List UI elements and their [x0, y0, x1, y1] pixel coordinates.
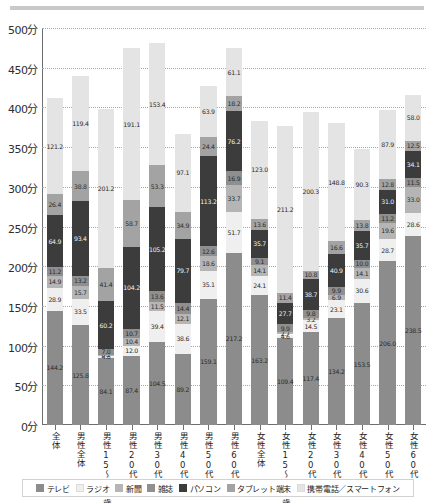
bar-value-label: 34.9 [170, 222, 197, 229]
bar-value-label: 10.7 [118, 330, 145, 337]
y-tick-label: 0分 [0, 418, 38, 434]
bar-stack[interactable]: 104.539.411.513.6105.253.3153.4 [149, 28, 166, 425]
bar-value-label: 35.1 [195, 281, 222, 288]
bar-stack[interactable]: 163.224.114.19.135.713.6123.0 [251, 28, 268, 425]
bar-value-label: 123.0 [246, 166, 273, 173]
bar-value-label: 53.3 [144, 183, 171, 190]
bar-value-label: 217.2 [221, 335, 248, 342]
legend-item[interactable]: 新聞 [115, 483, 141, 494]
x-tick [336, 425, 337, 430]
bar-value-label: 58.0 [400, 114, 427, 121]
bar-stack[interactable]: 109.44.62.79.927.711.4211.2 [277, 28, 294, 425]
bar-stack[interactable]: 84.14.60.17.060.241.4201.2 [98, 28, 115, 425]
bar-value-label: 18.2 [221, 100, 248, 107]
bar-stack[interactable]: 159.135.118.612.6113.224.463.9 [200, 28, 217, 425]
x-tick [80, 425, 81, 430]
bar-value-label: 104.5 [144, 380, 171, 387]
x-axis-label: 男性50代 [203, 432, 212, 479]
y-tick-label: 50分 [0, 378, 38, 394]
chart-page: 0分50分100分150分200分250分300分350分400分450分500… [0, 0, 434, 503]
legend-item[interactable]: タブレット端末 [227, 483, 291, 494]
x-axis-label: 男性60代 [229, 432, 238, 479]
chart-legend: テレビラジオ新聞雑誌パソコンタブレット端末携帯電話／スマートフォン [22, 479, 414, 497]
bar-value-label: 105.2 [144, 246, 171, 253]
bar-value-label: 9.9 [272, 325, 299, 332]
bar-value-label: 144.2 [42, 364, 69, 371]
bar-value-label: 40.9 [323, 267, 350, 274]
bar-value-label: 12.0 [118, 347, 145, 354]
bar-stack[interactable]: 217.251.733.716.976.218.261.1 [226, 28, 243, 425]
bar-value-label: 148.8 [323, 179, 350, 186]
bar-value-label: 28.9 [42, 296, 69, 303]
bar-value-label: 33.5 [67, 308, 94, 315]
bar-value-label: 35.7 [349, 242, 376, 249]
bar-value-label: 201.2 [93, 185, 120, 192]
bar-value-label: 39.4 [144, 323, 171, 330]
bar-value-label: 191.1 [118, 121, 145, 128]
x-axis-label: 女性60代 [408, 432, 417, 479]
bar-stack[interactable]: 144.228.914.911.264.926.4121.2 [47, 28, 64, 425]
x-tick [183, 425, 184, 430]
bar-value-label: 60.2 [93, 322, 120, 329]
y-tick-label: 250分 [0, 220, 38, 236]
x-tick [311, 425, 312, 430]
bar-value-label: 104.2 [118, 284, 145, 291]
bar-value-label: 24.4 [195, 143, 222, 150]
bar-value-label: 9.1 [246, 258, 273, 265]
legend-item[interactable]: 携帯電話／スマートフォン [297, 483, 400, 494]
bar-value-label: 28.7 [374, 247, 401, 254]
legend-item[interactable]: 雑誌 [147, 483, 173, 494]
x-axis-label: 女性40代 [357, 432, 366, 479]
x-axis-label: 男性20代 [127, 432, 136, 479]
legend-item[interactable]: テレビ [36, 483, 70, 494]
bar-value-label: 9.9 [323, 287, 350, 294]
bar-value-label: 26.4 [42, 201, 69, 208]
bar-stack[interactable]: 238.528.633.011.534.112.558.0 [405, 28, 422, 425]
bar-stack[interactable]: 206.028.719.611.231.012.887.9 [379, 28, 396, 425]
legend-label: 雑誌 [158, 483, 173, 494]
legend-label: 携帯電話／スマートフォン [307, 483, 399, 494]
bar-value-label: 14.5 [298, 323, 325, 330]
bar-value-label: 12.5 [400, 142, 427, 149]
bar-value-label: 12.1 [170, 315, 197, 322]
bar-value-label: 33.0 [400, 196, 427, 203]
bar-value-label: 10.8 [298, 271, 325, 278]
bar-value-label: 79.7 [170, 267, 197, 274]
bar-value-label: 30.6 [349, 287, 376, 294]
bar-value-label: 63.9 [195, 108, 222, 115]
bar-stack[interactable]: 117.414.53.29.838.710.8200.3 [303, 28, 320, 425]
bar-value-label: 206.0 [374, 340, 401, 347]
bar-value-label: 34.1 [400, 161, 427, 168]
bar-value-label: 12.8 [374, 181, 401, 188]
bar-stack[interactable]: 87.412.010.410.7104.258.7191.1 [123, 28, 140, 425]
bar-stack[interactable]: 134.223.16.99.940.916.6148.8 [328, 28, 345, 425]
bar-value-label: 163.2 [246, 357, 273, 364]
x-tick [413, 425, 414, 430]
bar-value-label: 153.4 [144, 101, 171, 108]
bar-value-label: 117.4 [298, 375, 325, 382]
bar-stack[interactable]: 89.238.612.114.479.734.997.1 [175, 28, 192, 425]
bar-value-label: 6.9 [323, 294, 350, 301]
bar-value-label: 38.6 [170, 335, 197, 342]
bar-value-label: 14.1 [349, 270, 376, 277]
bar-stack[interactable]: 125.833.515.713.293.438.8119.4 [72, 28, 89, 425]
bar-value-label: 31.0 [374, 198, 401, 205]
legend-item[interactable]: ラジオ [76, 483, 110, 494]
x-tick [106, 425, 107, 430]
legend-swatch-icon [115, 484, 123, 492]
bar-value-label: 113.2 [195, 198, 222, 205]
bar-stack[interactable]: 153.530.614.110.035.713.890.3 [354, 28, 371, 425]
x-tick [362, 425, 363, 430]
bar-value-label: 16.9 [221, 175, 248, 182]
bar-value-label: 28.6 [400, 221, 427, 228]
y-tick-label: 350分 [0, 140, 38, 156]
bar-value-label: 90.3 [349, 181, 376, 188]
legend-swatch-icon [36, 484, 44, 492]
y-axis-labels: 0分50分100分150分200分250分300分350分400分450分500… [0, 28, 40, 425]
top-divider [10, 6, 424, 10]
bar-value-label: 14.4 [170, 305, 197, 312]
bar-value-label: 38.7 [298, 291, 325, 298]
legend-item[interactable]: パソコン [179, 483, 220, 494]
bar-value-label: 24.1 [246, 282, 273, 289]
bar-value-label: 64.9 [42, 238, 69, 245]
